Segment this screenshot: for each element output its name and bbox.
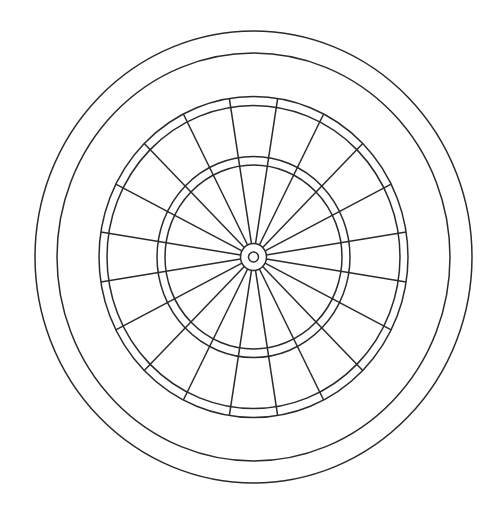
segment-line xyxy=(266,259,406,282)
segment-line xyxy=(229,270,251,415)
segment-line xyxy=(101,259,241,282)
segment-line xyxy=(266,232,406,255)
outer-bull-ring xyxy=(241,244,267,271)
dartboard xyxy=(0,0,497,507)
segment-line xyxy=(229,98,251,243)
bullseye xyxy=(241,244,267,271)
segment-line xyxy=(101,232,241,255)
segment-line xyxy=(256,98,278,243)
segment-line xyxy=(256,270,278,415)
